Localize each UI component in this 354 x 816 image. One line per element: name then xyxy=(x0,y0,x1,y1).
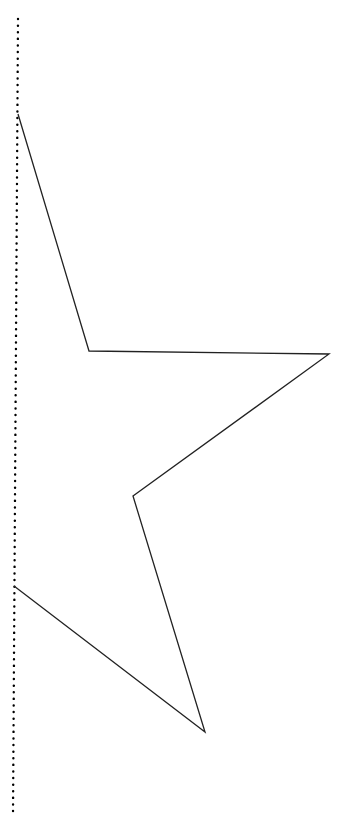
drawing-canvas[interactable] xyxy=(0,0,354,816)
star-outline-shape[interactable] xyxy=(14,114,329,732)
drawing-surface[interactable] xyxy=(0,0,354,816)
dotted-guide-line xyxy=(13,19,18,816)
